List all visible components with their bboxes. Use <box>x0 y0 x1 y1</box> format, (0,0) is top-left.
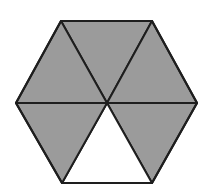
hexagon-figure <box>0 0 201 195</box>
hexagon-diagram <box>0 0 201 195</box>
